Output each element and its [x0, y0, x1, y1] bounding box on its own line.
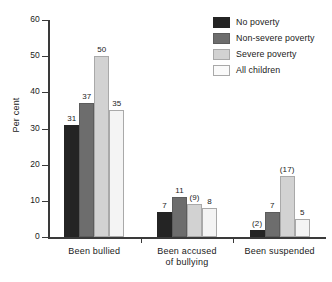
bar-value-label: 35 — [102, 100, 132, 108]
x-axis-category-label: Been accusedof bullying — [141, 246, 234, 268]
bar — [94, 56, 109, 237]
legend-label: No poverty — [236, 18, 280, 27]
y-axis-tick-label-text: 40 — [20, 87, 40, 96]
x-axis-separator — [141, 238, 142, 243]
y-axis-tick-label-text: 30 — [20, 124, 40, 133]
legend-swatch — [213, 49, 230, 60]
legend-swatch — [213, 17, 230, 28]
bar-value-label: 5 — [287, 209, 317, 217]
legend-label: Non-severe poverty — [236, 34, 315, 43]
y-axis-tick-label: 0 — [20, 232, 40, 242]
bar — [295, 219, 310, 237]
legend-label: All children — [236, 66, 280, 75]
bar — [187, 204, 202, 237]
y-axis-tick-label: 30 — [20, 124, 40, 134]
y-axis-tick-label: 20 — [20, 160, 40, 170]
y-axis-tick-label-text: 10 — [20, 196, 40, 205]
bar-value-label: 50 — [87, 46, 117, 54]
x-axis-category-line: Been accused — [141, 246, 234, 257]
x-axis-line — [48, 237, 326, 239]
bar-value-label: 8 — [194, 198, 224, 206]
y-axis-tick-label-text: 0 — [20, 232, 40, 241]
legend-item: Severe poverty — [213, 46, 315, 62]
y-axis-tick-label: 60 — [20, 15, 40, 25]
legend-swatch — [213, 33, 230, 44]
x-axis-category-line: Been bullied — [48, 246, 141, 257]
x-axis-category-line: Been suspended — [233, 246, 326, 257]
bar-value-label: (17) — [272, 166, 302, 174]
bar — [265, 212, 280, 237]
y-axis-tick-label: 10 — [20, 196, 40, 206]
y-axis-tick-label-text: 20 — [20, 160, 40, 169]
y-axis-tick-label: 50 — [20, 51, 40, 61]
x-axis-separator — [233, 238, 234, 243]
bar-chart: Per cent 0102030405060 31375035711(9)8(2… — [0, 0, 332, 282]
x-axis-category-line: of bullying — [141, 257, 234, 268]
legend-swatch — [213, 65, 230, 76]
bar — [79, 103, 94, 237]
bar-group: 31375035 — [48, 20, 141, 237]
bar — [202, 208, 217, 237]
y-axis-tick-label: 40 — [20, 87, 40, 97]
legend-item: All children — [213, 62, 315, 78]
x-axis-category-label: Been bullied — [48, 246, 141, 257]
bar — [109, 110, 124, 237]
bar — [64, 125, 79, 237]
chart-legend: No povertyNon-severe povertySevere pover… — [213, 14, 315, 78]
y-axis-tick-label-text: 60 — [20, 15, 40, 24]
bar — [250, 230, 265, 237]
x-axis-category-label: Been suspended — [233, 246, 326, 257]
legend-item: Non-severe poverty — [213, 30, 315, 46]
y-axis-tick-label-text: 50 — [20, 51, 40, 60]
legend-item: No poverty — [213, 14, 315, 30]
legend-label: Severe poverty — [236, 50, 297, 59]
bar — [157, 212, 172, 237]
bar — [172, 197, 187, 237]
bar — [280, 176, 295, 237]
